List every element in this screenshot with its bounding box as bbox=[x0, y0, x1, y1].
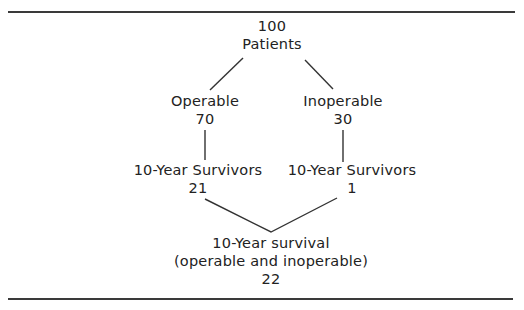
operable-survivors-count: 21 bbox=[134, 179, 263, 197]
inoperable-survivors-node: 10-Year Survivors 1 bbox=[288, 161, 417, 197]
root-node: 100 Patients bbox=[242, 17, 302, 53]
root-label: Patients bbox=[242, 35, 302, 53]
connector-root-to-operable bbox=[210, 58, 243, 90]
total-survival-label: 10-Year survival bbox=[174, 234, 368, 252]
inoperable-node: Inoperable 30 bbox=[303, 92, 382, 128]
operable-label: Operable bbox=[171, 92, 239, 110]
total-survival-count: 22 bbox=[174, 270, 368, 288]
root-count: 100 bbox=[242, 17, 302, 35]
inoperable-survivors-count: 1 bbox=[288, 179, 417, 197]
connector-root-to-inoperable bbox=[305, 60, 333, 89]
connector-survivors-to-total bbox=[205, 198, 337, 232]
operable-count: 70 bbox=[171, 110, 239, 128]
inoperable-count: 30 bbox=[303, 110, 382, 128]
total-survival-node: 10-Year survival (operable and inoperabl… bbox=[174, 234, 368, 288]
inoperable-survivors-label: 10-Year Survivors bbox=[288, 161, 417, 179]
operable-survivors-label: 10-Year Survivors bbox=[134, 161, 263, 179]
total-survival-sublabel: (operable and inoperable) bbox=[174, 252, 368, 270]
inoperable-label: Inoperable bbox=[303, 92, 382, 110]
operable-node: Operable 70 bbox=[171, 92, 239, 128]
operable-survivors-node: 10-Year Survivors 21 bbox=[134, 161, 263, 197]
